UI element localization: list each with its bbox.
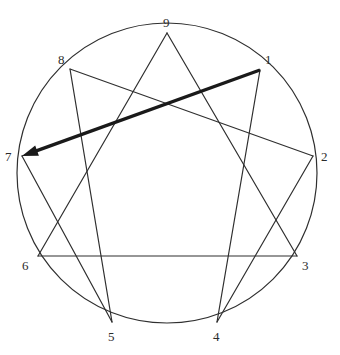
node-label-2: 2 <box>321 150 328 163</box>
edge-9-3 <box>167 33 297 256</box>
node-label-5: 5 <box>108 330 115 343</box>
arrow-1-to-7-group <box>22 70 260 156</box>
node-label-3: 3 <box>302 259 309 272</box>
arrow-head-at-7 <box>22 145 39 156</box>
node-label-7: 7 <box>5 150 12 163</box>
enneagram-figure: 123456789 <box>0 0 340 355</box>
enneagram-circle-group <box>17 23 317 323</box>
node-label-9: 9 <box>163 16 170 29</box>
node-label-4: 4 <box>213 330 220 343</box>
node-label-8: 8 <box>58 53 65 66</box>
arrow-shaft-1-to-7 <box>34 70 260 152</box>
enneagram-outer-circle <box>17 23 317 323</box>
node-label-1: 1 <box>265 53 272 66</box>
edge-2-8 <box>70 69 313 156</box>
node-label-6: 6 <box>22 259 29 272</box>
enneagram-canvas <box>0 0 340 355</box>
enneagram-edges-group <box>22 33 313 322</box>
